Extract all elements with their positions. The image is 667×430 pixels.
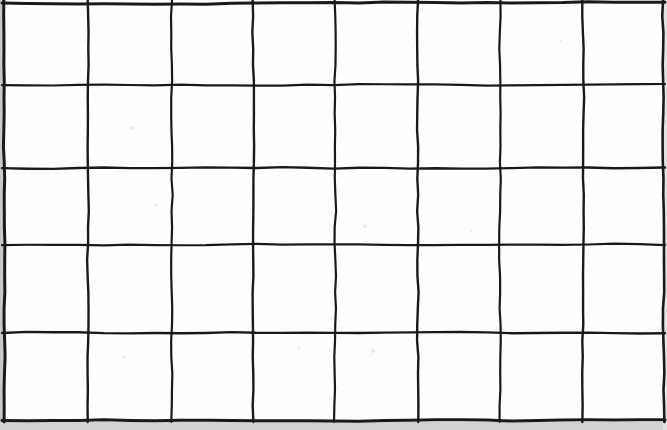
paper-speck xyxy=(363,224,367,228)
grid-line-horizontal-4 xyxy=(2,332,665,334)
paper-speck xyxy=(298,347,301,350)
hand-drawn-grid-figure xyxy=(0,0,667,430)
grid-line-vertical-3 xyxy=(252,0,254,422)
paper-speck xyxy=(560,40,563,43)
grid-line-vertical-2 xyxy=(171,0,173,422)
paper-speck xyxy=(371,349,375,353)
scan-edge-bottom xyxy=(0,422,667,430)
grid-line-vertical-7 xyxy=(582,0,584,422)
grid-line-horizontal-2 xyxy=(2,167,665,169)
paper-speck xyxy=(154,203,157,206)
grid-line-vertical-6 xyxy=(499,0,501,422)
paper-speck xyxy=(122,355,125,358)
paper-speck xyxy=(470,230,473,233)
paper-speck xyxy=(130,126,134,130)
grid-line-vertical-0 xyxy=(3,0,5,422)
grid-image-canvas xyxy=(0,0,667,430)
